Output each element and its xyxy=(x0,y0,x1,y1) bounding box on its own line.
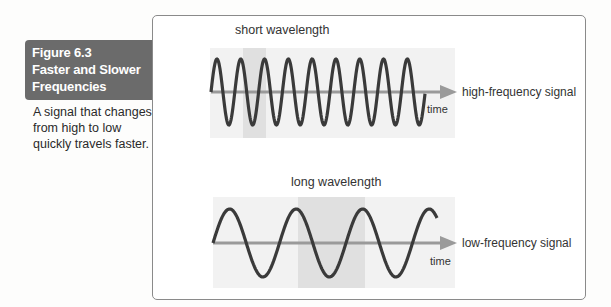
time-label-bottom: time xyxy=(430,255,451,267)
high-frequency-diagram: short wavelength time high-frequency sig… xyxy=(210,23,576,138)
wave-diagram: short wavelength time high-frequency sig… xyxy=(0,0,611,307)
time-label-top: time xyxy=(427,103,448,115)
long-wavelength-label: long wavelength xyxy=(291,175,381,189)
low-frequency-signal-label: low-frequency signal xyxy=(462,236,571,250)
low-frequency-diagram: long wavelength time low-frequency signa… xyxy=(213,175,571,288)
high-frequency-signal-label: high-frequency signal xyxy=(462,85,576,99)
short-wavelength-label: short wavelength xyxy=(235,23,330,37)
